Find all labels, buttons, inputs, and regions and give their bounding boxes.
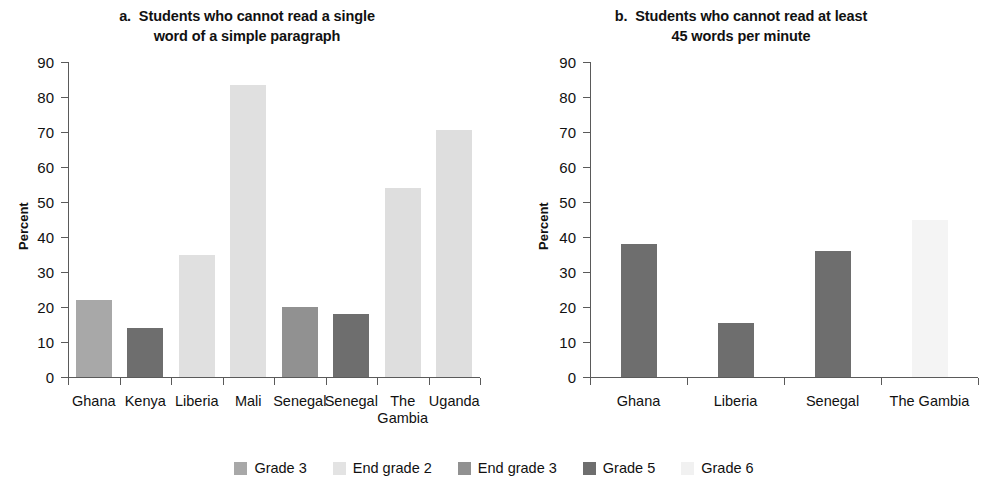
bar: [230, 85, 266, 377]
x-tick-mark: [171, 378, 172, 385]
y-tick-label: 40: [542, 230, 576, 245]
legend-item[interactable]: End grade 2: [333, 460, 432, 476]
y-tick-mark: [61, 342, 68, 343]
x-category-label: Senegal: [778, 393, 887, 410]
legend-swatch-icon: [583, 462, 596, 475]
y-tick-mark: [583, 202, 590, 203]
x-tick-mark: [120, 378, 121, 385]
y-tick-label: 90: [20, 55, 54, 70]
y-tick-label: 60: [20, 160, 54, 175]
y-tick-label: 60: [542, 160, 576, 175]
figure-container: a. Students who cannot read a single wor…: [0, 0, 988, 480]
legend-item[interactable]: Grade 3: [234, 460, 306, 476]
y-tick-label: 50: [542, 195, 576, 210]
x-category-label: The Gambia: [875, 393, 984, 410]
bar: [333, 314, 369, 377]
x-tick-mark: [480, 378, 481, 385]
x-tick-mark: [978, 378, 979, 385]
y-tick-mark: [583, 97, 590, 98]
legend-swatch-icon: [458, 462, 471, 475]
panel-b: b. Students who cannot read at least 45 …: [494, 0, 988, 440]
legend-label: End grade 3: [478, 460, 557, 476]
y-tick-label: 70: [20, 125, 54, 140]
y-tick-mark: [61, 132, 68, 133]
y-tick-label: 20: [20, 300, 54, 315]
legend-item[interactable]: End grade 3: [458, 460, 557, 476]
bar: [179, 255, 215, 378]
bar: [385, 188, 421, 377]
bar: [436, 130, 472, 377]
panel-a-plot: Percent9080706050403020100GhanaKenyaLibe…: [0, 0, 494, 440]
y-axis-line: [590, 62, 591, 377]
x-tick-mark: [784, 378, 785, 385]
legend-swatch-icon: [234, 462, 247, 475]
y-tick-label: 0: [542, 370, 576, 385]
y-tick-mark: [61, 377, 68, 378]
x-tick-mark: [881, 378, 882, 385]
panel-a: a. Students who cannot read a single wor…: [0, 0, 494, 440]
y-tick-label: 80: [20, 90, 54, 105]
y-tick-mark: [61, 62, 68, 63]
y-tick-label: 50: [20, 195, 54, 210]
y-tick-mark: [61, 272, 68, 273]
x-tick-mark: [223, 378, 224, 385]
y-tick-mark: [583, 167, 590, 168]
x-tick-mark: [687, 378, 688, 385]
y-tick-label: 10: [542, 335, 576, 350]
x-category-label: Uganda: [423, 393, 487, 410]
legend-swatch-icon: [333, 462, 346, 475]
y-tick-label: 90: [542, 55, 576, 70]
y-tick-mark: [583, 377, 590, 378]
chart-legend: Grade 3End grade 2End grade 3Grade 5Grad…: [0, 460, 988, 476]
x-category-label: Ghana: [584, 393, 693, 410]
x-tick-mark: [326, 378, 327, 385]
y-tick-label: 70: [542, 125, 576, 140]
x-tick-mark: [590, 378, 591, 385]
y-tick-label: 0: [20, 370, 54, 385]
y-tick-mark: [61, 167, 68, 168]
legend-swatch-icon: [681, 462, 694, 475]
legend-label: Grade 6: [701, 460, 753, 476]
y-tick-mark: [583, 272, 590, 273]
bar: [76, 300, 112, 377]
y-tick-label: 10: [20, 335, 54, 350]
y-tick-label: 30: [20, 265, 54, 280]
bar: [718, 323, 754, 377]
panel-b-plot: Percent9080706050403020100GhanaLiberiaSe…: [494, 0, 988, 440]
legend-item[interactable]: Grade 5: [583, 460, 655, 476]
bar: [127, 328, 163, 377]
y-tick-mark: [61, 97, 68, 98]
y-tick-mark: [583, 342, 590, 343]
x-tick-mark: [68, 378, 69, 385]
y-tick-label: 40: [20, 230, 54, 245]
legend-label: End grade 2: [353, 460, 432, 476]
y-tick-mark: [583, 307, 590, 308]
x-category-label: Liberia: [681, 393, 790, 410]
bar: [912, 220, 948, 378]
y-tick-mark: [583, 132, 590, 133]
x-tick-mark: [274, 378, 275, 385]
bar: [282, 307, 318, 377]
x-tick-mark: [377, 378, 378, 385]
x-tick-mark: [429, 378, 430, 385]
y-tick-mark: [61, 202, 68, 203]
legend-item[interactable]: Grade 6: [681, 460, 753, 476]
y-tick-label: 20: [542, 300, 576, 315]
legend-label: Grade 3: [254, 460, 306, 476]
legend-label: Grade 5: [603, 460, 655, 476]
y-tick-mark: [583, 237, 590, 238]
bar: [815, 251, 851, 377]
y-tick-mark: [61, 307, 68, 308]
y-tick-mark: [61, 237, 68, 238]
bar: [621, 244, 657, 377]
panels-row: a. Students who cannot read a single wor…: [0, 0, 988, 440]
y-tick-mark: [583, 62, 590, 63]
y-tick-label: 30: [542, 265, 576, 280]
y-axis-line: [68, 62, 69, 377]
y-tick-label: 80: [542, 90, 576, 105]
